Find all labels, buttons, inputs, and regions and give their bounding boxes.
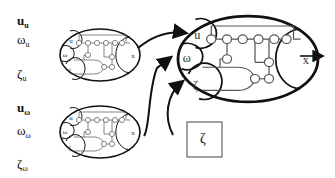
label-zeta-omega: ζω	[17, 157, 28, 173]
diagram-canvas: u ω ζ x	[0, 0, 335, 178]
module-top-left	[60, 29, 140, 81]
label-omega-omega: ωω	[17, 124, 31, 140]
arrow-zeta-to-main	[168, 82, 182, 135]
label-omega-u: ωu	[17, 33, 30, 49]
arrow-bottom-to-main	[144, 58, 170, 136]
label-u-omega: uω	[17, 101, 30, 117]
module-main	[178, 16, 318, 102]
label-zeta-u: ζu	[17, 67, 26, 83]
module-bottom-left	[60, 106, 140, 158]
zeta-box-label: ζ	[200, 132, 206, 146]
arrow-top-to-main	[138, 32, 185, 48]
label-u-u: uu	[17, 14, 29, 30]
